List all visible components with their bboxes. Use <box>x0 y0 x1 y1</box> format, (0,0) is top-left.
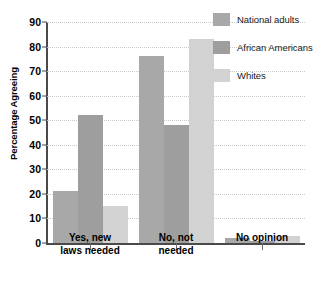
bar <box>78 115 103 243</box>
y-tick-label: 10 <box>11 212 41 224</box>
legend-swatch-icon <box>213 13 230 26</box>
legend: National adultsAfrican AmericansWhites <box>213 11 328 95</box>
bar-group <box>47 22 133 243</box>
bar-chart: Percentage Agreeing 0102030405060708090 … <box>0 0 328 285</box>
legend-label: African Americans <box>237 42 313 53</box>
y-tick-label: 30 <box>11 163 41 175</box>
y-tick-label: 20 <box>11 188 41 200</box>
x-category-label: No opinion <box>207 232 317 245</box>
y-tick-label: 50 <box>11 114 41 126</box>
bar <box>164 125 189 243</box>
y-tick-label: 60 <box>11 90 41 102</box>
legend-item[interactable]: Whites <box>213 67 328 84</box>
legend-swatch-icon <box>213 41 230 54</box>
legend-item[interactable]: African Americans <box>213 39 328 56</box>
bar <box>139 56 164 243</box>
bar-group <box>133 22 219 243</box>
legend-swatch-icon <box>213 69 230 82</box>
legend-item[interactable]: National adults <box>213 11 328 28</box>
y-tick-label: 70 <box>11 65 41 77</box>
legend-label: National adults <box>237 14 299 25</box>
y-tick-label: 90 <box>11 16 41 28</box>
bar <box>189 39 214 243</box>
y-tick-label: 80 <box>11 41 41 53</box>
y-tick-label: 40 <box>11 139 41 151</box>
legend-label: Whites <box>237 70 266 81</box>
